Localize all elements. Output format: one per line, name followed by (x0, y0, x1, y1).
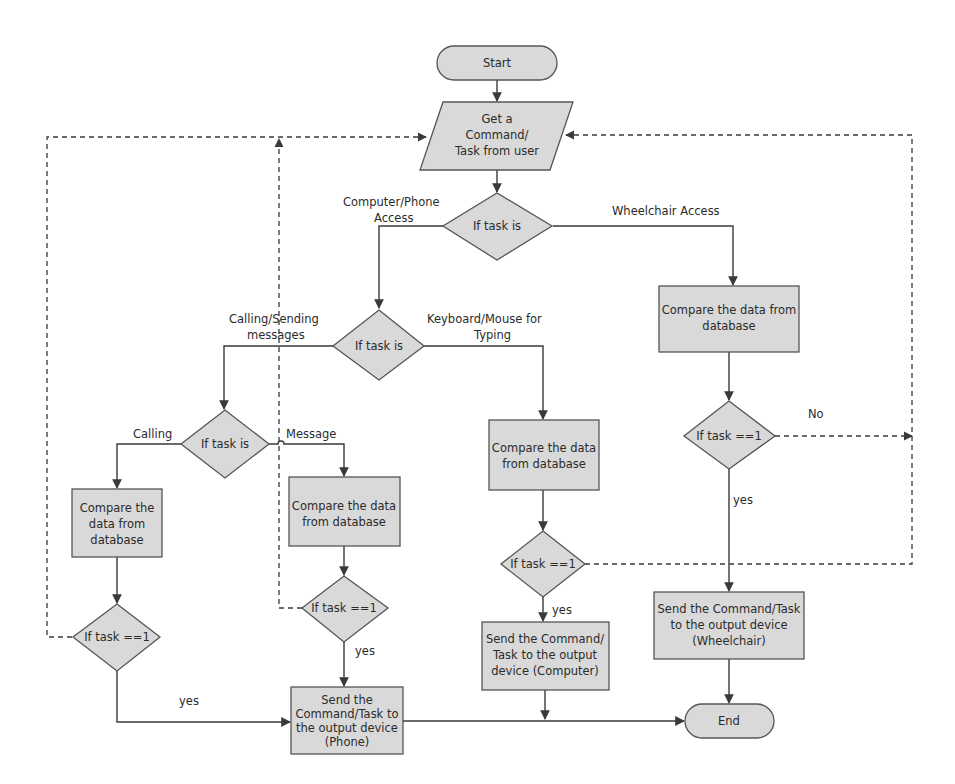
check-message-label: If task ==1 (311, 601, 377, 615)
compare-message-node: Compare the data from database (289, 477, 400, 546)
label-message: Message (286, 427, 336, 441)
compare-message-line-1: Compare the data (292, 499, 396, 513)
compare-calling-line-3: database (90, 533, 143, 547)
label-calling-sending-2: messages (247, 328, 305, 342)
input-line-3: Task from user (454, 144, 539, 158)
check-calling-label: If task ==1 (84, 630, 150, 644)
label-computer-phone-1: Computer/Phone (343, 195, 440, 209)
label-yes-keyboard: yes (552, 603, 572, 617)
send-phone-node: Send the Command/Task to the output devi… (291, 687, 403, 754)
decision-phone: If task is (181, 410, 269, 478)
end-label: End (718, 714, 740, 728)
label-keyboard-mouse-2: Typing (473, 328, 511, 342)
compare-calling-line-2: data from (89, 517, 145, 531)
check-keyboard-label: If task ==1 (510, 557, 576, 571)
label-calling-sending-1: Calling/Sending (229, 312, 319, 326)
decision-device: If task is (333, 310, 424, 380)
compare-wheelchair-node: Compare the data from database (659, 286, 799, 352)
end-node: End (685, 704, 774, 738)
compare-wheelchair-line-2: database (702, 319, 755, 333)
check-keyboard: If task ==1 (501, 531, 585, 597)
start-label: Start (483, 56, 512, 70)
label-yes-wheelchair: yes (733, 493, 753, 507)
decision-device-label: If task is (355, 339, 403, 353)
check-message: If task ==1 (302, 576, 388, 642)
send-computer-line-2: Task to the output (492, 648, 598, 662)
send-phone-line-4: (Phone) (325, 735, 370, 749)
label-computer-phone-2: Access (374, 211, 413, 225)
send-wheelchair-line-1: Send the Command/Task (658, 602, 801, 616)
label-yes-calling: yes (179, 694, 199, 708)
input-line-2: Command/ (466, 128, 529, 142)
label-yes-message: yes (355, 644, 375, 658)
label-keyboard-mouse-1: Keyboard/Mouse for (427, 312, 542, 326)
send-computer-node: Send the Command/ Task to the output dev… (482, 622, 609, 690)
start-node: Start (437, 46, 557, 80)
compare-wheelchair-line-1: Compare the data from (662, 303, 797, 317)
compare-keyboard-node: Compare the data from database (489, 420, 599, 490)
decision-phone-label: If task is (201, 437, 249, 451)
send-wheelchair-line-3: (Wheelchair) (692, 634, 766, 648)
check-wheelchair: If task ==1 (684, 401, 775, 469)
label-wheelchair-access: Wheelchair Access (612, 204, 720, 218)
connectors (117, 80, 733, 722)
label-no: No (808, 407, 824, 421)
compare-calling-node: Compare the data from database (72, 489, 162, 557)
send-wheelchair-line-2: to the output device (670, 618, 787, 632)
input-node: Get a Command/ Task from user (420, 102, 573, 170)
compare-keyboard-line-1: Compare the data (492, 441, 596, 455)
send-phone-line-1: Send the (321, 693, 373, 707)
decision-main: If task is (443, 193, 552, 260)
decision-main-label: If task is (473, 219, 521, 233)
compare-message-line-2: from database (302, 515, 386, 529)
compare-keyboard-line-2: from database (502, 457, 586, 471)
send-computer-line-3: device (Computer) (491, 664, 599, 678)
input-line-1: Get a (481, 112, 512, 126)
label-calling: Calling (133, 427, 172, 441)
send-phone-line-3: the output device (296, 721, 398, 735)
compare-calling-line-1: Compare the (80, 501, 155, 515)
check-wheelchair-label: If task ==1 (696, 429, 762, 443)
send-phone-line-2: Command/Task to (295, 707, 398, 721)
send-computer-line-1: Send the Command/ (486, 632, 604, 646)
flowchart-canvas: Start Get a Command/ Task from user If t… (0, 0, 955, 784)
send-wheelchair-node: Send the Command/Task to the output devi… (654, 592, 804, 659)
check-calling: If task ==1 (73, 604, 160, 671)
